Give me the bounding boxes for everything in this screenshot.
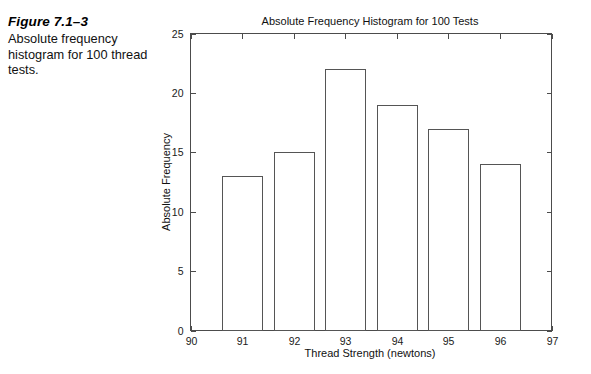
y-tick-label: 25 [172, 28, 184, 40]
x-tick-label: 96 [495, 335, 507, 347]
x-axis-title: Thread Strength (newtons) [305, 347, 436, 359]
chart-title: Absolute Frequency Histogram for 100 Tes… [262, 15, 479, 27]
x-tick-label: 90 [186, 335, 198, 347]
x-tick-label: 91 [237, 335, 249, 347]
x-tick-label: 95 [443, 335, 455, 347]
histogram-bar [326, 70, 366, 331]
histogram-bar [378, 106, 418, 331]
x-tick-label: 92 [289, 335, 301, 347]
y-tick-label: 5 [178, 265, 184, 277]
y-axis-title: Absolute Frequency [160, 133, 172, 231]
y-tick-label: 15 [172, 146, 184, 158]
x-tick-label: 93 [340, 335, 352, 347]
y-tick-label: 0 [178, 325, 184, 337]
y-axis-tick-labels: 0510152025 [172, 28, 184, 337]
histogram-figure: 0510152025 9091929394959697 Absolute Fre… [0, 0, 591, 374]
histogram-bar [275, 153, 315, 331]
histogram-bar [481, 165, 521, 331]
y-tick-label: 10 [172, 206, 184, 218]
histogram-chart: 0510152025 9091929394959697 Absolute Fre… [0, 0, 591, 374]
x-tick-label: 97 [547, 335, 559, 347]
y-tick-label: 20 [172, 87, 184, 99]
histogram-bars [223, 70, 521, 331]
histogram-bar [223, 177, 263, 331]
histogram-bar [429, 130, 469, 331]
x-tick-label: 94 [392, 335, 404, 347]
x-axis-tick-labels: 9091929394959697 [186, 335, 559, 347]
